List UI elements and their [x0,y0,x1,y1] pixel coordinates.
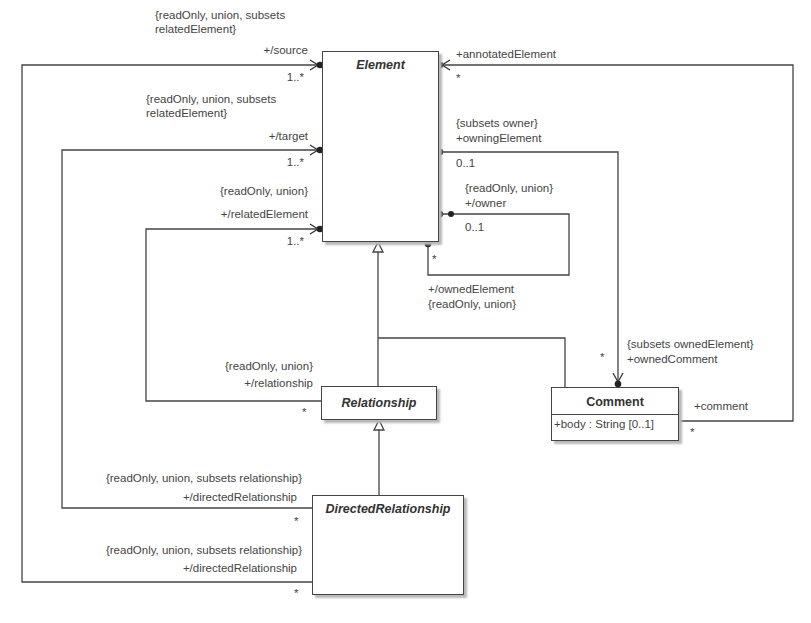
directed-relationship-1-multiplicity: * [294,514,298,528]
related-element-multiplicity: 1..* [287,234,304,248]
generalization-arrow-icon [374,420,384,430]
related-element-role: +/relatedElement [221,207,308,221]
owned-comment-constraint: {subsets ownedElement} [627,337,754,351]
attribute-compartment: +body : String [0..1] [552,414,678,433]
owned-element-role: +/ownedElement [428,282,514,296]
class-directed-relationship[interactable]: DirectedRelationship [312,495,464,595]
comment-role: +comment [694,399,748,413]
owned-element-constraint: {readOnly, union} [428,297,516,311]
class-element-name: Element [323,52,438,72]
class-element[interactable]: Element [322,51,439,242]
class-relationship[interactable]: Relationship [321,386,437,420]
annotated-element-multiplicity: * [456,71,460,85]
owned-element-multiplicity: * [432,252,436,266]
directed-relationship-1-constraint: {readOnly, union, subsets relationship} [106,471,302,485]
annotated-element-role: +annotatedElement [456,47,556,61]
owner-constraint: {readOnly, union} [465,181,553,195]
target-role: +/target [269,129,308,143]
owning-element-multiplicity: 0..1 [456,156,475,170]
directed-relationship-2-multiplicity: * [294,586,298,600]
comment-multiplicity: * [690,425,694,439]
class-comment[interactable]: Comment +body : String [0..1] [551,387,679,441]
source-role: +/source [264,43,308,57]
owned-comment-multiplicity: * [600,350,604,364]
owner-association-line [428,214,569,275]
owner-multiplicity: 0..1 [465,220,484,234]
target-association-line [62,150,322,508]
related-element-constraint: {readOnly, union} [220,184,308,198]
directed-relationship-1-role: +/directedRelationship [183,490,297,504]
attribute-body: +body : String [0..1] [552,415,678,433]
owning-element-constraint: {subsets owner} [456,116,538,130]
source-constraint-2: relatedElement} [155,22,236,36]
relationship-multiplicity: * [302,405,306,419]
target-constraint-2: relatedElement} [146,106,227,120]
source-multiplicity: 1..* [287,70,304,84]
relationship-constraint: {readOnly, union} [225,359,313,373]
relationship-role: +/relationship [244,376,313,390]
target-multiplicity: 1..* [287,155,304,169]
owned-comment-role: +ownedComment [627,352,717,366]
generalization-arrow-icon [373,242,383,252]
comment-generalization-line [378,338,565,387]
source-constraint: {readOnly, union, subsets [155,8,285,22]
owner-role: +/owner [465,196,506,210]
class-comment-name: Comment [552,388,678,414]
ownership-dot-icon [448,211,454,217]
class-directed-relationship-name: DirectedRelationship [313,496,463,516]
owning-element-role: +owningElement [456,131,541,145]
directed-relationship-2-constraint: {readOnly, union, subsets relationship} [106,543,302,557]
class-relationship-name: Relationship [322,387,436,410]
target-constraint: {readOnly, union, subsets [146,92,276,106]
directed-relationship-2-role: +/directedRelationship [183,561,297,575]
